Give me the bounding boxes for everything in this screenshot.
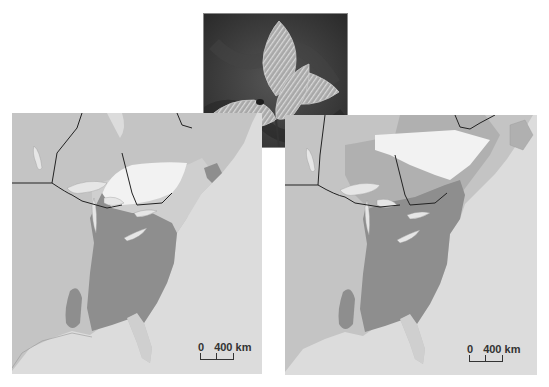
- map-graphic: [285, 115, 537, 375]
- scale-end-label: 400 km: [214, 341, 251, 353]
- scale-bar-left: 0 400 km: [198, 341, 251, 360]
- scale-bar-line: [200, 353, 234, 360]
- scale-bar-right: 0 400 km: [467, 343, 520, 362]
- range-map-left: 0 400 km: [12, 113, 262, 374]
- scale-bar-line: [469, 355, 503, 362]
- map-graphic: [12, 113, 262, 374]
- scale-end-label: 400 km: [483, 343, 520, 355]
- range-map-right: 0 400 km: [285, 115, 537, 375]
- scale-start-label: 0: [198, 341, 204, 353]
- scale-start-label: 0: [467, 343, 473, 355]
